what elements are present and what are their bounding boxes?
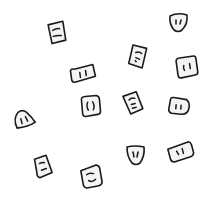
outlet-icon <box>167 142 195 162</box>
outlet-icon <box>33 155 53 179</box>
outlet-icon <box>125 144 146 167</box>
outlet-icon <box>128 44 148 70</box>
outlet-icon <box>168 12 189 33</box>
outlet-icon <box>12 108 36 130</box>
outlet-icon <box>47 21 67 45</box>
outlet-icon <box>69 65 97 83</box>
outlet-icon <box>167 96 192 117</box>
outlet-icon <box>79 94 102 118</box>
outlet-icon <box>175 55 199 79</box>
outlet-icon <box>123 91 143 115</box>
outlet-icon <box>80 164 103 189</box>
